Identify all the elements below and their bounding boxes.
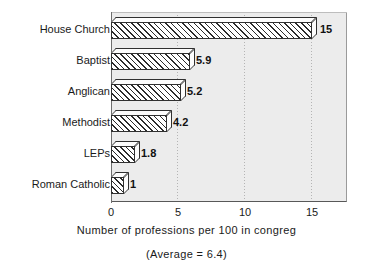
category-label-leps: LEPs [0,147,110,160]
bar-front-face [111,177,124,194]
bar-side-face [312,17,317,39]
bar-chart: House Church 15 Baptist 5.9 Anglican 5.2… [0,0,373,272]
value-label-leps: 1.8 [141,147,156,160]
gridline-15 [311,12,312,201]
category-label-house-church: House Church [0,23,110,36]
xtick-5: 5 [163,206,193,219]
value-label-roman-catholic: 1 [130,178,136,191]
category-label-methodist: Methodist [0,116,110,129]
bar-front-face [111,115,167,132]
bar-side-face [167,110,172,132]
category-label-baptist: Baptist [0,54,110,67]
bar-house-church [111,17,317,39]
bar-roman-catholic [111,172,129,194]
plot-area [111,12,347,202]
value-label-methodist: 4.2 [173,116,188,129]
gridline-5 [177,12,178,201]
x-axis-title: Number of professions per 100 in congreg [0,223,373,237]
bar-front-face [111,22,312,39]
bar-methodist [111,110,172,132]
bar-leps [111,141,140,163]
category-label-roman-catholic: Roman Catholic [0,178,110,191]
bar-side-face [190,48,195,70]
value-label-baptist: 5.9 [196,54,211,67]
bar-front-face [111,84,181,101]
bar-front-face [111,146,135,163]
category-label-anglican: Anglican [0,85,110,98]
bar-baptist [111,48,195,70]
bar-front-face [111,53,190,70]
bar-side-face [135,141,140,163]
value-label-anglican: 5.2 [187,85,202,98]
value-label-house-church: 15 [320,23,332,36]
bar-side-face [181,79,186,101]
bar-side-face [124,172,129,194]
xtick-10: 10 [230,206,260,219]
gridline-10 [244,12,245,201]
xtick-15: 15 [297,206,327,219]
bar-anglican [111,79,186,101]
average-annotation: (Average = 6.4) [0,247,373,261]
plot-top-border [111,12,347,13]
xtick-0: 0 [96,206,126,219]
